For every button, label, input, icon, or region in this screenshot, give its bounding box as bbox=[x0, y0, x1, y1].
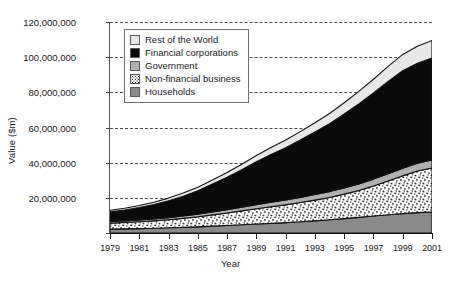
y-tick-label: 40,000,000 bbox=[28, 157, 76, 168]
x-tick-mark bbox=[198, 233, 199, 239]
x-axis-title: Year bbox=[0, 258, 461, 269]
y-axis-title: Value ($m) bbox=[0, 0, 22, 281]
legend-label: Government bbox=[145, 60, 197, 72]
legend-label: Households bbox=[145, 86, 195, 98]
x-tick-mark bbox=[139, 233, 140, 239]
y-tick-label: 100,000,000 bbox=[23, 52, 76, 63]
legend-label: Rest of the World bbox=[145, 34, 218, 46]
x-tick-label: 1991 bbox=[276, 243, 296, 253]
legend-label: Non-financial business bbox=[145, 73, 241, 85]
x-tick-mark bbox=[286, 233, 287, 239]
x-tick-mark bbox=[227, 233, 228, 239]
x-tick-mark bbox=[344, 233, 345, 239]
y-tick-label: 20,000,000 bbox=[28, 192, 76, 203]
x-tick-label: 1999 bbox=[393, 243, 413, 253]
legend-item[interactable]: Households bbox=[130, 86, 241, 98]
legend-swatch-icon bbox=[130, 35, 140, 45]
x-tick-mark bbox=[373, 233, 374, 239]
y-tick-label: 120,000,000 bbox=[23, 17, 76, 28]
legend-swatch-icon bbox=[130, 61, 140, 71]
x-tick-label: 1989 bbox=[247, 243, 267, 253]
chart-legend: Rest of the WorldFinancial corporationsG… bbox=[124, 29, 249, 103]
legend-swatch-icon bbox=[130, 48, 140, 58]
legend-item[interactable]: Rest of the World bbox=[130, 34, 241, 46]
x-tick-label: 1981 bbox=[129, 243, 149, 253]
x-tick-label: 1987 bbox=[217, 243, 237, 253]
x-tick-mark bbox=[169, 233, 170, 239]
y-tick-label: 80,000,000 bbox=[28, 87, 76, 98]
x-tick-mark bbox=[403, 233, 404, 239]
legend-swatch-icon bbox=[130, 87, 140, 97]
legend-item[interactable]: Government bbox=[130, 60, 241, 72]
x-tick-mark bbox=[315, 233, 316, 239]
legend-item[interactable]: Financial corporations bbox=[130, 47, 241, 59]
x-axis-line bbox=[109, 233, 433, 234]
x-tick-label: 1983 bbox=[159, 243, 179, 253]
chart-figure: Value ($m) Year 20,000,00040,000,00060,0… bbox=[0, 0, 461, 281]
x-tick-label: 2001 bbox=[422, 243, 442, 253]
x-tick-mark bbox=[432, 233, 433, 239]
legend-item[interactable]: Non-financial business bbox=[130, 73, 241, 85]
x-tick-label: 1995 bbox=[334, 243, 354, 253]
x-tick-mark bbox=[110, 233, 111, 239]
x-tick-label: 1997 bbox=[364, 243, 384, 253]
x-tick-label: 1979 bbox=[100, 243, 120, 253]
legend-swatch-icon bbox=[130, 74, 140, 84]
legend-label: Financial corporations bbox=[145, 47, 238, 59]
x-tick-label: 1985 bbox=[188, 243, 208, 253]
x-tick-label: 1993 bbox=[305, 243, 325, 253]
y-tick-label: 60,000,000 bbox=[28, 122, 76, 133]
x-tick-mark bbox=[256, 233, 257, 239]
